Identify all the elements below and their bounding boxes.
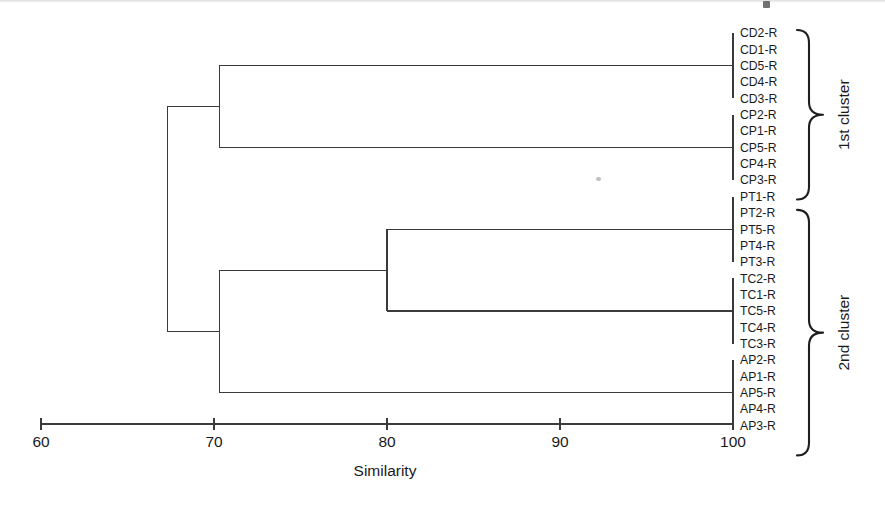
cluster-label-1st: 1st cluster [835, 79, 852, 150]
dendrogram-tree-lines [167, 33, 733, 425]
x-axis-tick-group: 60708090100 [32, 418, 746, 450]
leaf-label: TC1-R [740, 288, 776, 302]
leaf-label: AP3-R [740, 419, 776, 433]
leaf-label: CP2-R [740, 108, 777, 122]
leaf-label: PT1-R [740, 190, 775, 204]
x-axis-tick-label: 90 [551, 433, 569, 450]
x-axis-tick-label: 80 [378, 433, 396, 450]
leaf-label: CD3-R [740, 92, 777, 106]
cluster-annotations: 1st cluster 2nd cluster [797, 30, 852, 455]
leaf-label: CP5-R [740, 141, 777, 155]
leaf-label: PT5-R [740, 223, 775, 237]
leaf-label: AP2-R [740, 353, 776, 367]
dendrogram-figure: CD2-RCD1-RCD5-RCD4-RCD3-RCP2-RCP1-RCP5-R… [0, 0, 885, 514]
leaf-label: PT2-R [740, 206, 775, 220]
leaf-label: TC3-R [740, 337, 776, 351]
cluster-label-2nd: 2nd cluster [835, 295, 852, 371]
leaf-label: TC4-R [740, 321, 776, 335]
leaf-label: TC5-R [740, 304, 776, 318]
leaf-label: PT4-R [740, 239, 775, 253]
brace-2nd-cluster [797, 210, 823, 456]
leaf-label-group: CD2-RCD1-RCD5-RCD4-RCD3-RCP2-RCP1-RCP5-R… [740, 26, 777, 432]
brace-1st-cluster [797, 30, 823, 200]
leaf-label: AP5-R [740, 386, 776, 400]
leaf-label: AP1-R [740, 370, 776, 384]
leaf-label: CD1-R [740, 43, 777, 57]
leaf-label: CD5-R [740, 59, 777, 73]
x-axis-title: Similarity [354, 462, 417, 479]
leaf-label: CP4-R [740, 157, 777, 171]
leaf-label: CD2-R [740, 26, 777, 40]
leaf-label: PT3-R [740, 255, 775, 269]
x-axis-tick-label: 60 [32, 433, 50, 450]
leaf-label: TC2-R [740, 272, 776, 286]
x-axis-tick-label: 70 [205, 433, 223, 450]
leaf-label: CD4-R [740, 75, 777, 89]
x-axis: 60708090100 [32, 418, 746, 450]
x-axis-tick-label: 100 [720, 433, 746, 450]
leaf-label: CP1-R [740, 124, 777, 138]
leaf-label: CP3-R [740, 173, 777, 187]
leaf-label: AP4-R [740, 402, 776, 416]
